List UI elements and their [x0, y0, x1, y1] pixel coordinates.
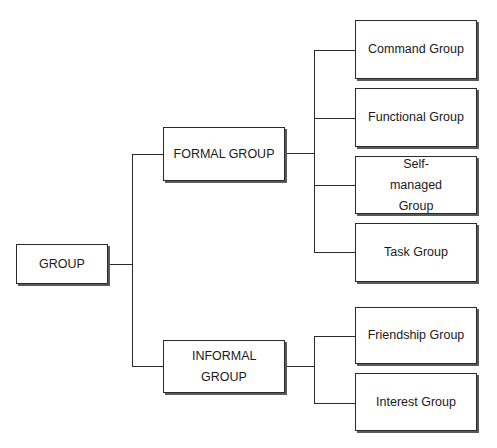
node-interest-group: Interest Group	[355, 373, 477, 431]
connector-root	[107, 264, 132, 265]
connector-to-interest	[314, 403, 355, 404]
connector-formal-trunk	[314, 50, 315, 253]
connector-to-task	[314, 252, 355, 253]
node-label: Interest Group	[376, 392, 456, 413]
node-task-group: Task Group	[355, 223, 477, 282]
connector-to-formal	[132, 154, 163, 155]
node-friendship-group: Friendship Group	[355, 307, 477, 364]
connector-to-command	[314, 50, 355, 51]
node-functional-group: Functional Group	[355, 88, 477, 147]
connector-to-friendship	[314, 336, 355, 337]
node-label: Command Group	[368, 39, 464, 60]
node-label: Functional Group	[368, 107, 464, 128]
connector-formal-out	[284, 153, 314, 154]
connector-informal-out	[284, 366, 314, 367]
node-group: GROUP	[16, 244, 108, 284]
node-command-group: Command Group	[355, 20, 477, 79]
connector-to-functional	[314, 118, 355, 119]
node-self-managed-group: Self-managed Group	[355, 156, 477, 214]
connector-informal-trunk	[314, 336, 315, 403]
node-informal-group: INFORMAL GROUP	[163, 340, 285, 393]
node-label: INFORMAL GROUP	[192, 346, 256, 388]
node-label: Task Group	[384, 242, 448, 263]
node-label: Friendship Group	[368, 325, 465, 346]
connector-root-trunk	[132, 154, 133, 367]
node-formal-group: FORMAL GROUP	[163, 127, 285, 181]
node-label: Self-managed Group	[378, 154, 454, 217]
connector-to-selfmanaged	[314, 185, 355, 186]
node-label: GROUP	[39, 254, 85, 275]
connector-to-informal	[132, 366, 163, 367]
node-label: FORMAL GROUP	[174, 144, 275, 165]
